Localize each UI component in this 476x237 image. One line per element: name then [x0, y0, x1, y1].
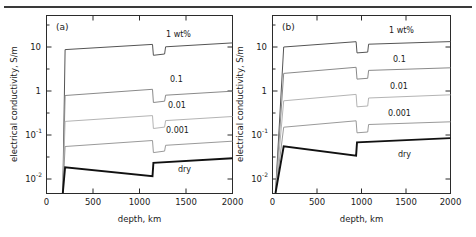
svg-text:10: 10: [251, 174, 262, 184]
panel-a-ytick-1: 1: [36, 86, 41, 96]
panel-a-x-ticks: [47, 16, 233, 194]
panel-a-label-001: 0.01: [168, 101, 186, 110]
panel-a-frame: [47, 16, 233, 194]
panel-a: 10 1 10 -1 10 -2 0 500 1000 1500 2000 (a…: [9, 16, 243, 225]
curve-b-01wt: [276, 67, 451, 193]
panel-a-label-0001: 0.001: [166, 126, 189, 135]
svg-text:-2: -2: [36, 171, 42, 178]
panel-b-xaxis-title: depth, km: [340, 214, 383, 224]
panel-a-label: (a): [56, 22, 69, 32]
svg-text:-1: -1: [262, 127, 268, 134]
panel-b-yaxis-title: electrical conductivity, S/m: [235, 46, 245, 162]
panel-b-label-001: 0.01: [390, 82, 408, 91]
svg-text:-2: -2: [262, 171, 268, 178]
curve-b-0001wt: [276, 121, 451, 193]
curve-b-1wt: [276, 42, 451, 193]
panel-b: 10 1 10 -1 10 -2 0 500 1000 1500 2000 (b…: [235, 16, 461, 225]
panel-a-ytick-1e-1: 10 -1: [25, 127, 42, 140]
panel-a-xtick-1500: 1500: [175, 197, 197, 207]
panel-b-label-0001: 0.001: [388, 109, 411, 118]
svg-text:10: 10: [251, 130, 262, 140]
curve-b-dry: [276, 138, 451, 193]
panel-a-label-1wt: 1 wt%: [166, 30, 191, 39]
svg-text:-1: -1: [36, 127, 42, 134]
panel-b-label: (b): [282, 22, 295, 32]
panel-b-ytick-1: 1: [262, 86, 267, 96]
panel-b-label-01: 0.1: [393, 55, 406, 64]
panel-b-xtick-1000: 1000: [351, 197, 373, 207]
panel-b-y-ticks: [273, 25, 451, 179]
curve-a-0001wt: [63, 141, 233, 194]
panel-a-ytick-1e-2: 10 -2: [25, 171, 42, 184]
panel-b-curves: [276, 42, 451, 193]
panel-b-ytick-1e-2: 10 -2: [251, 171, 268, 184]
panel-a-xtick-500: 500: [85, 197, 101, 207]
panel-a-curves: [63, 43, 233, 193]
svg-text:10: 10: [25, 174, 36, 184]
panel-b-label-dry: dry: [398, 150, 411, 159]
panel-a-yaxis-title: electrical conductivity, S/m: [9, 46, 19, 162]
panel-b-xtick-500: 500: [309, 197, 325, 207]
panel-a-xtick-2000: 2000: [222, 197, 244, 207]
panel-a-xtick-0: 0: [44, 197, 49, 207]
panel-b-ytick-1e-1: 10 -1: [251, 127, 268, 140]
panel-b-ytick-10: 10: [256, 42, 267, 52]
figure-svg: 10 1 10 -1 10 -2 0 500 1000 1500 2000 (a…: [0, 0, 476, 237]
panel-b-xtick-2000: 2000: [440, 197, 462, 207]
top-rule-divider: [4, 6, 472, 8]
curve-b-001wt: [276, 94, 451, 193]
svg-text:10: 10: [25, 130, 36, 140]
curve-a-001wt: [63, 116, 233, 193]
panel-a-y-ticks: [47, 25, 233, 179]
figure-canvas: 10 1 10 -1 10 -2 0 500 1000 1500 2000 (a…: [0, 0, 476, 237]
panel-a-xtick-1000: 1000: [129, 197, 151, 207]
panel-a-label-01: 0.1: [170, 75, 183, 84]
panel-b-label-1wt: 1 wt%: [389, 26, 414, 35]
panel-a-label-dry: dry: [178, 165, 191, 174]
curve-a-dry: [63, 158, 233, 193]
panel-b-xtick-0: 0: [270, 197, 275, 207]
panel-b-xtick-1500: 1500: [395, 197, 417, 207]
panel-a-xaxis-title: depth, km: [118, 214, 161, 224]
panel-a-ytick-10: 10: [30, 42, 41, 52]
